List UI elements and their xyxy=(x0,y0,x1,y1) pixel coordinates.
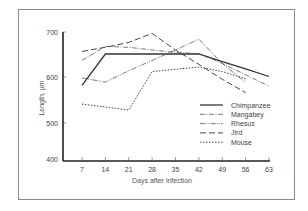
legend-label-mouse: Mouse xyxy=(231,139,252,146)
y-tick-label: 400 xyxy=(46,156,58,163)
legend: ChimpanzeeMangabeyRhesusJirdMouse xyxy=(200,102,270,146)
legend-label-rhesus: Rhesus xyxy=(231,120,255,127)
line-chart: 700 600 500 400 71421283542495663 Days a… xyxy=(0,0,308,211)
x-tick-label: 21 xyxy=(125,166,133,173)
x-ticks: 71421283542495663 xyxy=(80,157,273,173)
x-axis-title: Days after infection xyxy=(132,177,192,185)
x-tick-label: 35 xyxy=(172,166,180,173)
legend-label-chimpanzee: Chimpanzee xyxy=(231,102,270,110)
y-axis-title: Length, µm xyxy=(38,80,46,115)
y-tick-label: 700 xyxy=(46,29,58,36)
x-tick-label: 14 xyxy=(101,166,109,173)
legend-label-jird: Jird xyxy=(231,129,242,136)
y-tick-label: 600 xyxy=(46,74,58,81)
y-tick-label: 500 xyxy=(46,120,58,127)
series-line-chimpanzee xyxy=(82,54,269,85)
series-line-mangabey xyxy=(82,46,269,86)
x-tick-label: 7 xyxy=(80,166,84,173)
x-tick-label: 42 xyxy=(195,166,203,173)
series-line-mouse xyxy=(82,67,246,110)
legend-label-mangabey: Mangabey xyxy=(231,111,264,119)
series-group xyxy=(82,33,269,110)
x-tick-label: 28 xyxy=(148,166,156,173)
x-tick-label: 49 xyxy=(218,166,226,173)
x-tick-label: 56 xyxy=(242,166,250,173)
x-tick-label: 63 xyxy=(265,166,273,173)
